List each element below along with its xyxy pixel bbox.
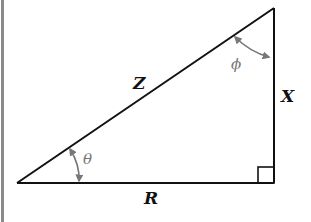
triangle (17, 8, 274, 183)
theta-arc-icon (70, 149, 79, 181)
label-phi: ϕ (231, 55, 241, 73)
right-angle-marker (258, 167, 274, 183)
label-z: Z (133, 73, 145, 93)
phi-arc-icon (235, 37, 269, 57)
label-x: X (281, 86, 294, 106)
label-theta: θ (83, 150, 92, 168)
label-r: R (144, 188, 158, 208)
side-z (17, 8, 274, 183)
